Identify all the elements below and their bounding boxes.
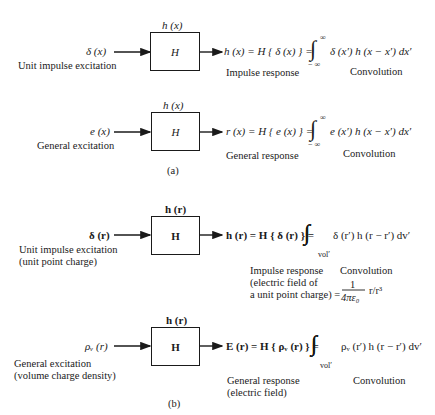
fraction-tail: r/r³ (369, 285, 382, 297)
system-box: H (150, 32, 200, 71)
input-description-line1: General excitation (14, 358, 91, 370)
fraction-denominator: 4πε₀ (341, 292, 359, 304)
integrand: δ (r′) h (r − r′) dv′ (333, 229, 410, 241)
integral-subscript: vol′ (318, 250, 330, 259)
system-box: H (151, 112, 200, 151)
system-label: h (x) (162, 19, 182, 31)
integrand: ρᵥ (r′) h (r − r′) dv′ (341, 340, 422, 352)
input-description: Unit impulse excitation (18, 60, 117, 72)
integral-sign: ∫ (310, 38, 316, 60)
integrand: δ (x′) h (x − x′) dx′ (330, 45, 411, 57)
output-equation-lhs: h (r) = H { δ (r) } = (226, 229, 314, 241)
convolution-label: Convolution (353, 375, 406, 387)
convolution-label: Convolution (350, 66, 403, 78)
system-label: h (r) (165, 203, 186, 215)
output-description-line2: (electric field of (250, 277, 318, 289)
system-label: h (r) (166, 314, 187, 326)
input-signal: δ (x) (86, 45, 106, 57)
output-description-line1: Impulse response (250, 265, 323, 277)
system-box-label: H (171, 230, 180, 242)
input-signal: δ (r) (89, 229, 110, 241)
input-signal: ρᵥ (r) (85, 340, 108, 352)
input-description: General excitation (37, 140, 114, 152)
output-equation-lhs: E (r) = H { ρᵥ (r) } = (226, 340, 319, 352)
system-box-label: H (171, 341, 180, 353)
integral-lower-limit: − ∞ (308, 60, 320, 69)
panel-a-caption: (a) (167, 165, 179, 176)
input-description-line1: Unit impulse excitation (19, 244, 118, 256)
integral-upper-limit: ∞ (320, 113, 326, 122)
integral-subscript: vol′ (320, 361, 332, 370)
system-box: H (151, 216, 200, 255)
fraction-numerator: 1 (350, 279, 355, 291)
integrand: e (x′) h (x − x′) dx′ (330, 125, 411, 137)
convolution-label: Convolution (343, 148, 396, 160)
output-description-line2: (electric field) (227, 387, 287, 399)
integral-upper-limit: ∞ (320, 33, 326, 42)
input-signal: e (x) (90, 125, 110, 137)
system-box: H (151, 327, 200, 366)
output-equation-lhs: h (x) = H { δ (x) } = (224, 45, 313, 57)
output-description: General response (226, 150, 299, 162)
output-equation-lhs: r (x) = H { e (x) } = (226, 125, 313, 137)
system-box-label: H (171, 46, 179, 58)
integral-lower-limit: − ∞ (308, 140, 320, 149)
output-description-line3: a unit point charge) = (250, 289, 340, 301)
convolution-label: Convolution (340, 265, 393, 277)
panel-b-caption: (b) (168, 398, 180, 409)
system-label: h (x) (163, 99, 183, 111)
input-description-line2: (unit point charge) (19, 256, 97, 268)
input-description-line2: (volume charge density) (14, 370, 116, 382)
output-description: Impulse response (226, 67, 299, 79)
output-description-line1: General response (227, 375, 300, 387)
system-box-label: H (172, 126, 180, 138)
integral-sign: ∫ (310, 118, 316, 140)
